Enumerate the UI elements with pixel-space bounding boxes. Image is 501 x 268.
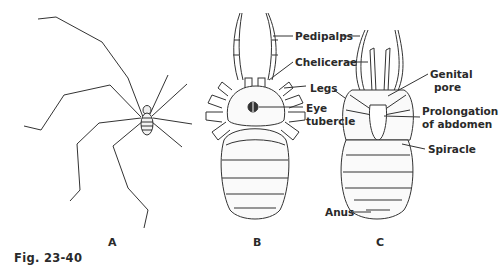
panel-b-body <box>221 86 289 219</box>
harvestman-anatomy-figure: Pedipalps Chelicerae Legs Eye tubercle G… <box>0 0 501 268</box>
label-anus: Anus <box>325 206 354 218</box>
panel-a-legs <box>24 17 192 228</box>
panel-label-b: B <box>253 236 261 249</box>
label-pedipalps: Pedipalps <box>295 30 353 42</box>
label-genital: Genital <box>430 68 473 80</box>
label-legs: Legs <box>310 82 338 94</box>
panel-c-body <box>341 90 413 219</box>
label-tubercle: tubercle <box>306 115 355 127</box>
panel-b-pedipalps <box>233 13 278 80</box>
label-pore: pore <box>434 81 461 93</box>
label-spiracle: Spiracle <box>428 143 476 155</box>
label-prolongation: Prolongation <box>422 105 498 117</box>
panel-c-chelicerae <box>370 48 390 92</box>
panel-label-c: C <box>376 236 384 249</box>
label-of-abdomen: of abdomen <box>422 118 492 130</box>
label-chelicerae: Chelicerae <box>295 56 357 68</box>
panel-a-body <box>141 106 153 136</box>
panel-label-a: A <box>108 236 117 249</box>
label-eye: Eye <box>306 102 327 114</box>
figure-caption: Fig. 23-40 <box>14 251 82 265</box>
anatomy-drawing <box>0 0 501 268</box>
